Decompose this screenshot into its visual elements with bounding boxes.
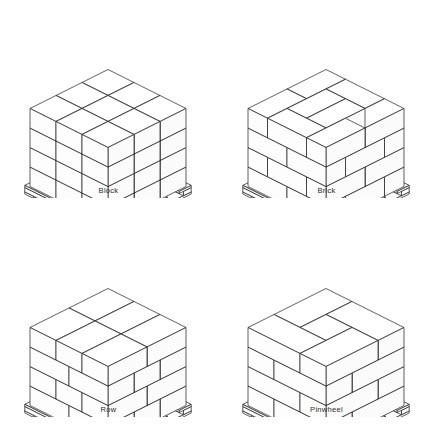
pattern-drawing-brick <box>218 0 435 198</box>
pattern-label-brick: Brick <box>218 186 435 195</box>
pattern-cell-row: Row <box>0 219 217 438</box>
pattern-cell-brick: Brick <box>218 0 435 219</box>
pattern-drawing-row <box>0 219 217 417</box>
iso-stack-pinwheel <box>218 219 435 417</box>
pattern-drawing-block <box>0 0 217 198</box>
pattern-label-pinwheel: Pinwheel <box>218 405 435 414</box>
pattern-cell-pinwheel: Pinwheel <box>218 219 435 438</box>
pattern-label-block: Block <box>0 186 217 195</box>
pattern-label-row: Row <box>0 405 217 414</box>
iso-stack-row <box>0 219 217 417</box>
iso-stack-brick <box>218 0 435 198</box>
iso-stack-block <box>0 0 217 198</box>
pattern-cell-block: Block <box>0 0 217 219</box>
pattern-drawing-pinwheel <box>218 219 435 417</box>
pallet-patterns-figure: Block Brick Row Pinwheel <box>0 0 435 438</box>
